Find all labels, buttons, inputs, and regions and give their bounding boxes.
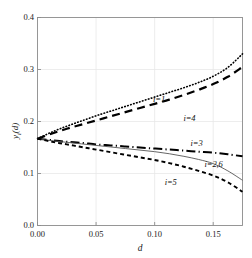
series-annotation-i-1: i=1 (153, 94, 165, 104)
series-annotation-i-2-6: i=2,6 (205, 159, 223, 169)
y-axis-tick-label: 0.3 (8, 64, 34, 74)
x-axis-tick-label: 0.10 (139, 229, 171, 239)
y-axis-title: yi(d) (10, 122, 22, 138)
x-axis-tick-label: 0.00 (22, 229, 54, 239)
series-annotation-i-3: i=3 (191, 138, 203, 148)
x-axis-tick-label: 0.15 (197, 229, 229, 239)
y-axis-tick-label: 0.4 (8, 12, 34, 22)
y-axis-tick-label: 0.1 (8, 168, 34, 178)
y-axis-title-argument: (d) (10, 122, 20, 133)
x-axis-tick-label: 0.05 (80, 229, 112, 239)
chart-plot-area (0, 0, 252, 258)
y-axis-title-base: y (10, 135, 20, 139)
chart-figure: 0.00.10.20.30.40.000.050.100.15dyi(d)i=1… (0, 0, 252, 258)
x-axis-title: d (130, 243, 150, 253)
series-annotation-i-5: i=5 (165, 177, 177, 187)
series-annotation-i-4: i=4 (183, 113, 195, 123)
